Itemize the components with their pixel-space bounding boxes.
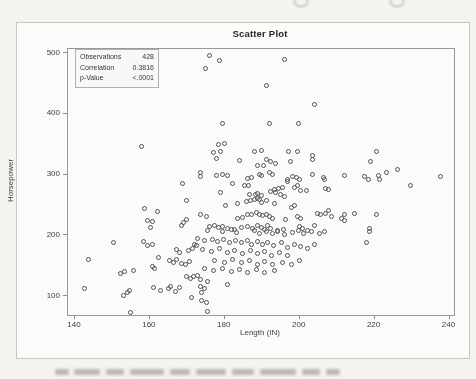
scatter-point xyxy=(322,229,327,234)
scatter-point xyxy=(296,228,301,233)
scatter-point xyxy=(289,205,294,210)
scatter-point xyxy=(312,242,317,247)
scatter-point xyxy=(264,83,269,88)
scatter-point xyxy=(364,240,369,245)
scatter-point xyxy=(377,177,382,182)
scatter-point xyxy=(288,159,293,164)
scatter-point xyxy=(289,262,294,267)
scatter-point xyxy=(366,177,371,182)
scatter-point xyxy=(285,253,290,258)
scatter-point xyxy=(352,211,357,216)
scatter-point xyxy=(239,225,244,230)
scatter-point xyxy=(217,246,222,251)
scatter-point xyxy=(255,239,260,244)
scatter-point xyxy=(267,121,272,126)
stats-row: Observations 428 xyxy=(80,52,154,63)
scatter-point xyxy=(282,194,287,199)
scatter-point xyxy=(310,172,315,177)
x-axis-label: Length (IN) xyxy=(67,328,453,337)
scatter-point xyxy=(318,212,323,217)
scatter-point xyxy=(249,175,254,180)
scatter-point xyxy=(212,258,217,263)
scatter-point xyxy=(240,251,245,256)
x-tick-mark xyxy=(224,315,225,319)
scatter-point xyxy=(283,217,288,222)
scatter-point xyxy=(249,242,254,247)
scatter-point xyxy=(216,142,221,147)
scatter-point xyxy=(262,259,267,264)
scatter-point xyxy=(310,157,315,162)
scatter-point xyxy=(202,238,207,243)
stats-label: Correlation xyxy=(80,63,114,74)
plot-area: Observations 428 Correlation 0.3816 p-Va… xyxy=(67,48,455,316)
scatter-point xyxy=(220,266,225,271)
scatter-point xyxy=(269,253,274,258)
scatter-point xyxy=(220,121,225,126)
scatter-point xyxy=(277,250,282,255)
scatter-point xyxy=(317,231,322,236)
scatter-point xyxy=(249,212,254,217)
scatter-point xyxy=(255,251,260,256)
y-tick-label: 200 xyxy=(32,230,60,240)
scatter-point xyxy=(111,240,116,245)
scatter-point xyxy=(221,237,226,242)
scatter-point xyxy=(292,242,297,247)
scatter-point xyxy=(230,181,235,186)
scatter-point xyxy=(367,229,372,234)
scatter-point xyxy=(301,231,306,236)
scatter-point xyxy=(222,260,227,265)
stats-value: 0.3816 xyxy=(133,63,154,74)
stats-row: p-Value <.0001 xyxy=(80,73,154,84)
scatter-point xyxy=(395,167,400,172)
scatter-point xyxy=(270,262,275,267)
x-tick-mark xyxy=(299,315,300,319)
y-tick-label: 500 xyxy=(32,48,60,58)
y-tick-mark xyxy=(63,113,67,114)
scanned-page: Scatter Plot Horsepower Observations 428… xyxy=(0,0,476,379)
scatter-point xyxy=(292,185,297,190)
scatter-point xyxy=(151,285,156,290)
scatter-point xyxy=(199,290,204,295)
scatter-point xyxy=(209,249,214,254)
scatter-point xyxy=(189,295,194,300)
page-artifact xyxy=(294,0,308,7)
scatter-point xyxy=(211,150,216,155)
scatter-point xyxy=(282,57,287,62)
scatter-point xyxy=(296,121,301,126)
scatter-point xyxy=(177,250,182,255)
scatter-point xyxy=(285,179,290,184)
scatter-point xyxy=(342,173,347,178)
scatter-point xyxy=(326,187,331,192)
scatter-point xyxy=(198,277,203,282)
x-tick-mark xyxy=(149,315,150,319)
scatter-point xyxy=(374,149,379,154)
scatter-point xyxy=(298,216,303,221)
scatter-point xyxy=(271,243,276,248)
scatter-point xyxy=(227,240,232,245)
scatter-point xyxy=(255,163,260,168)
scatter-point xyxy=(265,240,270,245)
scatter-point xyxy=(309,229,314,234)
scatter-point xyxy=(180,181,185,186)
scatter-point xyxy=(290,230,295,235)
scatter-point xyxy=(259,148,264,153)
scatter-point xyxy=(194,243,199,248)
scatter-point xyxy=(214,173,219,178)
scatter-point xyxy=(195,236,200,241)
scatter-point xyxy=(298,188,303,193)
scatter-point xyxy=(187,259,192,264)
scatter-point xyxy=(259,173,264,178)
scatter-point xyxy=(184,198,189,203)
y-tick-label: 400 xyxy=(32,108,60,118)
scatter-point xyxy=(168,284,173,289)
scatter-point xyxy=(229,269,234,274)
scatter-point xyxy=(203,66,208,71)
y-tick-mark xyxy=(63,234,67,235)
scatter-point xyxy=(280,185,285,190)
scatter-point xyxy=(230,257,235,262)
scatter-point xyxy=(279,240,284,245)
scatter-point xyxy=(275,229,280,234)
scatter-point xyxy=(225,173,230,178)
figure: Scatter Plot Horsepower Observations 428… xyxy=(16,22,470,359)
scatter-point xyxy=(252,149,257,154)
